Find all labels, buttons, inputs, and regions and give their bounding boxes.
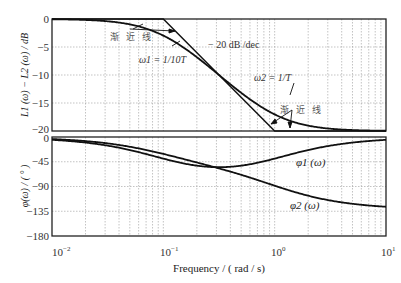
svg-text:−45: −45 [32,155,50,167]
svg-text:101: 101 [381,245,396,258]
lower-y-axis-label: φ(ω) / ( ° ) [19,164,31,207]
x-ticks: 10−2 10−1 100 101 [52,245,396,258]
asymptote-label-2: 渐 近 线 [280,104,323,115]
svg-text:−10: −10 [32,69,50,81]
svg-text:−5: −5 [37,41,49,53]
phi1-curve [52,140,386,167]
svg-text:100: 100 [271,245,286,258]
omega2-label: ω2 = 1/T [254,72,293,83]
upper-y-axis-label: L1 (ω) − L2 (ω) / dB [19,33,31,118]
lower-grid [52,137,386,236]
svg-text:0: 0 [44,132,50,144]
omega1-label: ω1 = 1/10T [139,54,188,65]
slope-label: − 20 dB /dec [208,39,260,50]
svg-text:−90: −90 [32,180,50,192]
phi1-label: φ1 (ω) [296,156,326,169]
x-axis-label: Frequency / ( rad / s) [173,262,265,275]
svg-text:−180: −180 [26,230,49,242]
phi2-curve [52,139,386,207]
bode-plot: 0 −5 −10 −15 −20 0 −45 −90 −135 −180 10−… [0,0,401,283]
svg-text:10−1: 10−1 [160,245,179,258]
svg-text:−15: −15 [32,97,50,109]
phi2-label: φ2 (ω) [290,199,320,212]
svg-text:10−2: 10−2 [52,245,71,258]
svg-text:0: 0 [44,13,50,25]
asymptote-label-1: 渐 近 线 [110,31,153,42]
magnitude-curve [52,19,386,131]
upper-y-ticks: 0 −5 −10 −15 −20 [32,13,50,135]
lower-plot-frame [52,137,386,236]
